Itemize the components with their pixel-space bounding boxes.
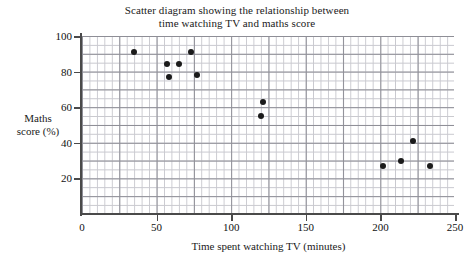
y-tick-label: 20: [40, 172, 72, 184]
y-axis-title-line-1: Maths: [2, 112, 74, 125]
x-tick-label: 50: [151, 221, 162, 233]
x-tick-label: 250: [447, 221, 464, 233]
data-point: [188, 49, 194, 55]
x-tick-label: 0: [79, 221, 85, 233]
y-tick: [74, 107, 81, 109]
chart-title-line-2: time watching TV and maths score: [0, 17, 474, 30]
y-tick: [74, 36, 81, 38]
y-axis-title: Maths score (%): [2, 112, 74, 138]
data-point: [166, 74, 172, 80]
x-axis-line: [80, 213, 459, 215]
x-tick: [231, 214, 233, 221]
y-axis-line: [80, 33, 82, 216]
chart-title: Scatter diagram showing the relationship…: [0, 4, 474, 30]
y-tick-label: 80: [40, 66, 72, 78]
data-point: [427, 163, 433, 169]
plot-area: [82, 36, 455, 214]
y-tick: [74, 178, 81, 180]
x-tick-label: 150: [298, 221, 315, 233]
data-point: [398, 158, 404, 164]
y-tick: [74, 72, 81, 74]
x-axis-title: Time spent watching TV (minutes): [82, 240, 455, 252]
major-gridlines: [82, 36, 455, 214]
chart-title-line-1: Scatter diagram showing the relationship…: [0, 4, 474, 17]
scatter-chart-figure: Scatter diagram showing the relationship…: [0, 0, 474, 269]
x-tick: [157, 214, 159, 221]
x-tick-label: 200: [372, 221, 389, 233]
x-tick: [455, 214, 457, 221]
data-point: [260, 99, 266, 105]
y-axis-title-line-2: score (%): [2, 125, 74, 138]
x-tick: [306, 214, 308, 221]
y-tick-label: 100: [40, 30, 72, 42]
x-tick: [380, 214, 382, 221]
y-tick: [74, 143, 81, 145]
grid-right-mask: [454, 36, 456, 214]
x-tick-label: 100: [223, 221, 240, 233]
y-tick-label: 40: [40, 137, 72, 149]
data-point: [194, 72, 200, 78]
